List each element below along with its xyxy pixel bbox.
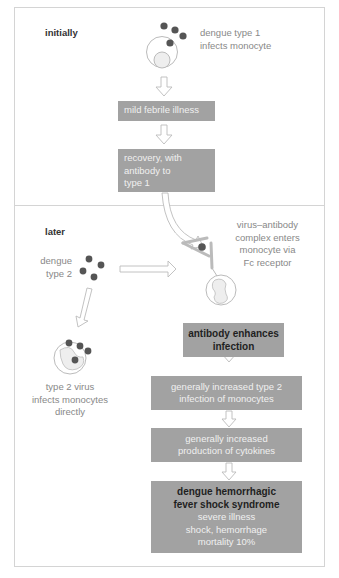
box-line: antibody enhances: [183, 327, 284, 340]
caption-line: virus–antibody: [225, 219, 310, 232]
box-line: recovery, with: [124, 152, 209, 165]
box-increased-infection: generally increased type 2 infection of …: [151, 376, 302, 410]
outcome-title: dengue hemorrhagic: [151, 485, 302, 498]
caption-complex-enters: virus–antibody complex enters monocyte v…: [225, 219, 310, 269]
caption-line: Fc receptor: [225, 257, 310, 270]
section-heading-later: later: [45, 226, 65, 237]
caption-line: type 2: [32, 268, 72, 281]
outcome-detail: mortality 10%: [151, 536, 302, 549]
box-line: production of cytokines: [151, 445, 302, 458]
box-mild-febrile-illness: mild febrile illness: [118, 101, 215, 121]
outcome-detail: shock, hemorrhage: [151, 524, 302, 537]
box-line: type 1: [124, 177, 209, 190]
virus-type2-icon: [80, 256, 105, 281]
caption-line: directly: [20, 406, 120, 419]
box-label: mild febrile illness: [124, 104, 199, 115]
box-line: antibody to: [124, 165, 209, 178]
outcome-detail: severe illness: [151, 511, 302, 524]
caption-line: infects monocytes: [20, 394, 120, 407]
diagonal-arrow-icon: [76, 288, 92, 327]
caption-line: monocyte via: [225, 244, 310, 257]
box-antibody-enhances: antibody enhances infection: [183, 323, 284, 357]
box-cytokines: generally increased production of cytoki…: [151, 428, 302, 462]
outcome-title: fever shock syndrome: [151, 498, 302, 511]
box-line: generally increased type 2: [151, 381, 302, 394]
box-line: generally increased: [151, 433, 302, 446]
section-heading-initially: initially: [45, 27, 78, 38]
right-arrow-icon: [120, 261, 176, 277]
box-dhf-outcome: dengue hemorrhagic fever shock syndrome …: [151, 481, 302, 553]
caption-line: type 2 virus: [20, 381, 120, 394]
caption-direct-infection: type 2 virus infects monocytes directly: [20, 381, 120, 419]
box-line: infection: [183, 340, 284, 353]
monocyte-icon: [147, 37, 178, 69]
caption-dengue-type2: dengue type 2: [32, 255, 72, 280]
box-recovery: recovery, with antibody to type 1: [118, 149, 215, 192]
box-line: infection of monocytes: [151, 393, 302, 406]
caption-line: infects monocyte: [200, 40, 271, 53]
infected-monocyte-icon: [54, 340, 91, 374]
caption-line: complex enters: [225, 232, 310, 245]
caption-type1-infects: dengue type 1 infects monocyte: [200, 27, 271, 52]
caption-line: dengue: [32, 255, 72, 268]
caption-line: dengue type 1: [200, 27, 271, 40]
